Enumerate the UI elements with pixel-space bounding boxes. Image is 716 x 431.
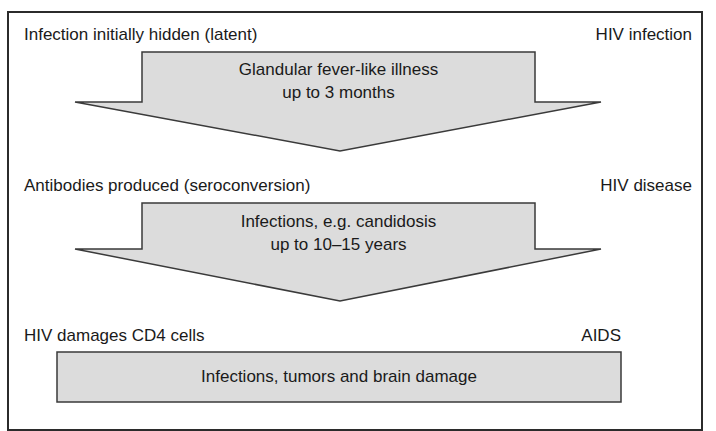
stage-2-left-label: Antibodies produced (seroconversion) (24, 176, 310, 196)
stage-1-text-line2: up to 3 months (142, 81, 535, 104)
stage-2-right-label: HIV disease (600, 176, 692, 196)
stage-3-left-label: HIV damages CD4 cells (24, 326, 204, 346)
stage-3-text-line1: Infections, tumors and brain damage (57, 365, 621, 388)
stage-1-text-line1: Glandular fever-like illness (142, 58, 535, 81)
stage-2-text-line2: up to 10–15 years (142, 233, 535, 256)
stage-3-right-label: AIDS (581, 326, 621, 346)
stage-1-right-label: HIV infection (596, 25, 692, 45)
stage-3-box-text: Infections, tumors and brain damage (57, 365, 621, 388)
stage-1-arrow-text: Glandular fever-like illness up to 3 mon… (142, 58, 535, 104)
stage-2-text-line1: Infections, e.g. candidosis (142, 210, 535, 233)
stage-1-left-label: Infection initially hidden (latent) (24, 25, 257, 45)
stage-2-arrow-text: Infections, e.g. candidosis up to 10–15 … (142, 210, 535, 256)
